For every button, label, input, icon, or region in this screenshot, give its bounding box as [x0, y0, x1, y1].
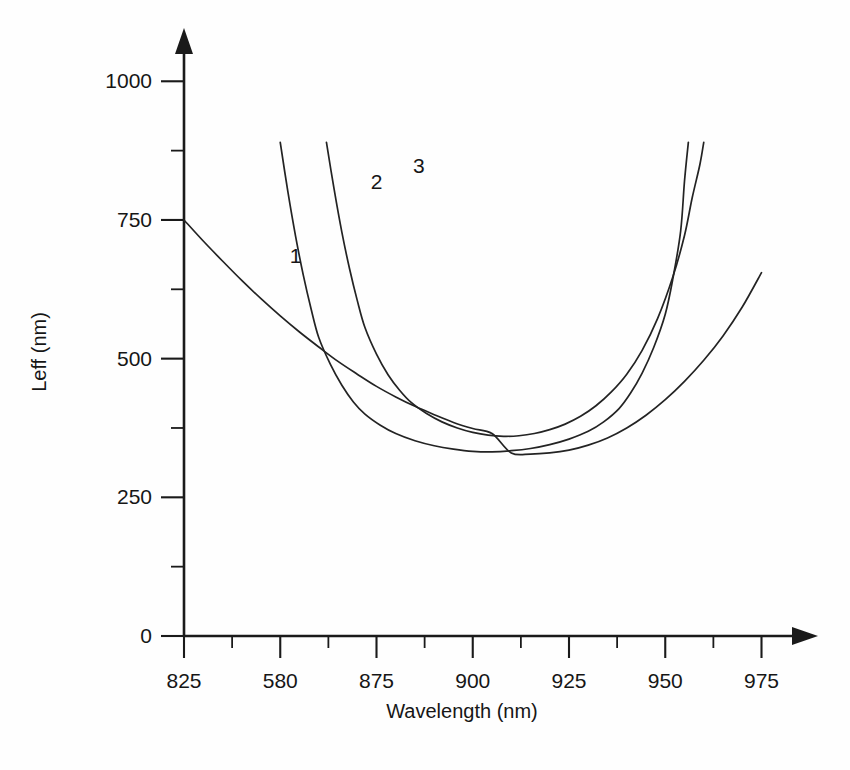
- y-axis-ticks: [161, 81, 184, 636]
- y-tick-label: 0: [140, 624, 152, 647]
- curve-2: [280, 142, 688, 452]
- x-tick-label: 975: [744, 669, 779, 692]
- curve-label-1: 1: [290, 244, 302, 267]
- y-axis-tick-labels: 02505007501000: [105, 69, 152, 647]
- curve-1: [184, 220, 762, 455]
- y-tick-label: 1000: [105, 69, 152, 92]
- y-axis-title: Leff (nm): [28, 312, 50, 392]
- y-tick-label: 500: [117, 347, 152, 370]
- y-tick-label: 750: [117, 208, 152, 231]
- x-tick-label: 580: [263, 669, 298, 692]
- y-axis-arrowhead: [175, 28, 193, 54]
- y-tick-label: 250: [117, 485, 152, 508]
- data-curves: [184, 142, 762, 455]
- x-tick-label: 950: [648, 669, 683, 692]
- x-axis-tick-labels: 825580875900925950975: [166, 669, 779, 692]
- line-chart: 02505007501000 825580875900925950975 123…: [0, 0, 850, 770]
- x-axis-title: Wavelength (nm): [386, 700, 538, 722]
- curve-label-3: 3: [413, 154, 425, 177]
- curve-labels: 123: [290, 154, 425, 267]
- x-axis-arrowhead: [792, 627, 818, 645]
- x-tick-label: 875: [359, 669, 394, 692]
- x-axis-ticks: [184, 636, 762, 658]
- curve-label-2: 2: [371, 170, 383, 193]
- x-tick-label: 925: [551, 669, 586, 692]
- x-tick-label: 825: [166, 669, 201, 692]
- curve-3: [326, 142, 703, 436]
- x-tick-label: 900: [455, 669, 490, 692]
- figure-container: 02505007501000 825580875900925950975 123…: [0, 0, 850, 770]
